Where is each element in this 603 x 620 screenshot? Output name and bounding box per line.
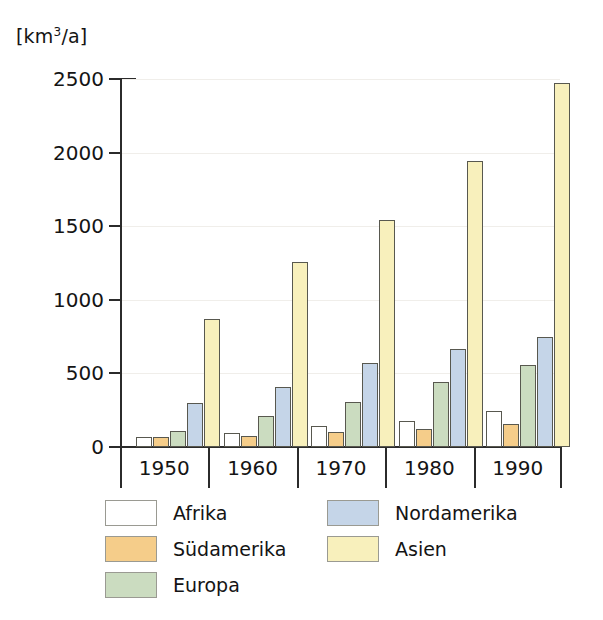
x-axis-year-band: 19501960197019801990 (120, 448, 562, 488)
bar (170, 431, 186, 447)
bar (187, 403, 203, 447)
legend-swatch (327, 500, 379, 526)
y-axis-tick-labels: 05001000150020002500 (20, 79, 104, 447)
bar (153, 437, 169, 447)
legend-item[interactable]: Afrika (105, 495, 286, 531)
bar (345, 402, 361, 447)
y-axis-tick-label: 0 (91, 435, 104, 459)
y-axis-unit-prefix: [km (16, 25, 54, 47)
legend-label: Südamerika (173, 538, 286, 560)
bar (224, 433, 240, 447)
bar (503, 424, 519, 447)
y-axis-tick-mark (109, 78, 120, 80)
y-axis-unit-suffix: /a] (61, 25, 87, 47)
y-axis-tick-mark (109, 372, 120, 374)
plot-area (122, 79, 560, 447)
legend-label: Europa (173, 574, 240, 596)
x-axis-category-label: 1960 (208, 448, 296, 488)
legend-swatch (105, 500, 157, 526)
bar (379, 220, 395, 447)
legend-label: Nordamerika (395, 502, 518, 524)
legend-item[interactable]: Südamerika (105, 531, 286, 567)
y-axis-tick-label: 2000 (53, 141, 104, 165)
bar (416, 429, 432, 447)
legend-item[interactable]: Asien (327, 531, 518, 567)
bar (554, 83, 570, 447)
bar-group (486, 79, 570, 447)
y-axis-tick-label: 500 (66, 361, 104, 385)
bar (450, 349, 466, 447)
bar-group (136, 79, 220, 447)
bar (311, 426, 327, 447)
legend-item[interactable]: Europa (105, 567, 286, 603)
bar (292, 262, 308, 447)
y-axis-tick-mark (109, 152, 120, 154)
legend-swatch (105, 536, 157, 562)
legend-swatch (105, 572, 157, 598)
bar (275, 387, 291, 447)
y-axis-tick-label: 2500 (53, 67, 104, 91)
legend-column-right: NordamerikaAsien (327, 495, 518, 567)
legend-label: Asien (395, 538, 447, 560)
bar (520, 365, 536, 447)
bar-group (399, 79, 483, 447)
bar (328, 432, 344, 447)
y-axis-unit-label: [km3/a] (16, 25, 87, 47)
bar (204, 319, 220, 447)
x-axis-category-label: 1980 (385, 448, 473, 488)
x-axis-category-label: 1990 (474, 448, 562, 488)
bar (136, 437, 152, 447)
bar (399, 421, 415, 447)
legend-label: Afrika (173, 502, 227, 524)
y-axis-tick-label: 1000 (53, 288, 104, 312)
bar-group (311, 79, 395, 447)
y-axis-tick-mark (109, 225, 120, 227)
y-axis-tick-mark (109, 299, 120, 301)
bar (537, 337, 553, 447)
bar-group (224, 79, 308, 447)
bar (486, 411, 502, 447)
legend-column-left: AfrikaSüdamerikaEuropa (105, 495, 286, 603)
legend-item[interactable]: Nordamerika (327, 495, 518, 531)
water-usage-bar-chart: [km3/a] 05001000150020002500 19501960197… (0, 0, 603, 620)
x-axis-category-label: 1950 (120, 448, 208, 488)
y-axis-tick-label: 1500 (53, 214, 104, 238)
y-axis-tick-mark (109, 446, 120, 448)
x-axis-category-label: 1970 (297, 448, 385, 488)
bar (258, 416, 274, 447)
bar (433, 382, 449, 447)
chart-legend: AfrikaSüdamerikaEuropa NordamerikaAsien (105, 495, 555, 607)
bar (362, 363, 378, 447)
legend-swatch (327, 536, 379, 562)
bar (241, 436, 257, 447)
bar (467, 161, 483, 447)
